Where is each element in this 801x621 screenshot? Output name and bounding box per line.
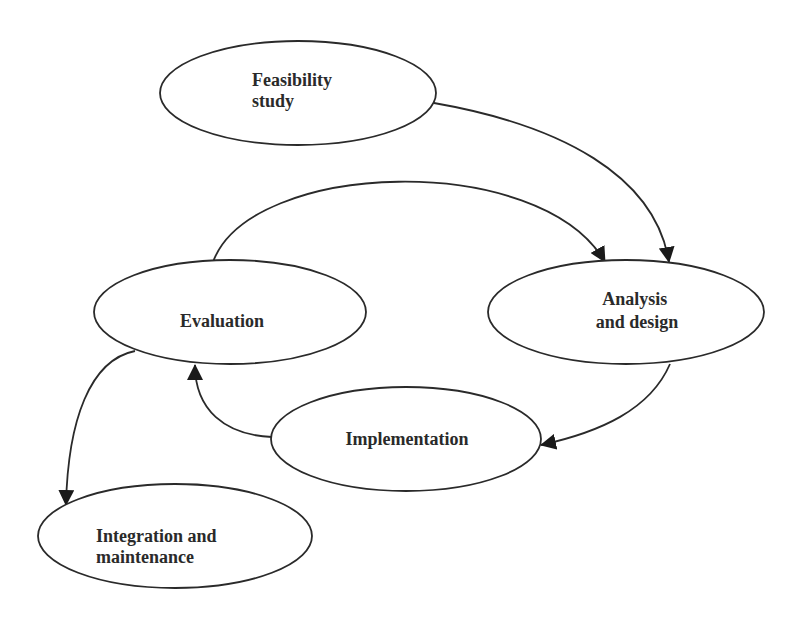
process-cycle-diagram: Feasibility study Analysis and design Ev…: [0, 0, 801, 621]
node-feasibility-study-label-line2: study: [252, 91, 294, 111]
node-feasibility-study-shape: [160, 41, 436, 145]
arrow-implementation-to-evaluation: [195, 365, 272, 437]
arrow-evaluation-to-integration: [66, 351, 135, 505]
arrow-evaluation-to-analysis: [213, 182, 605, 262]
node-feasibility-study-label-line1: Feasibility: [252, 70, 332, 90]
arrow-feasibility-to-analysis: [434, 103, 669, 262]
node-evaluation-label: Evaluation: [180, 311, 264, 331]
arrow-analysis-to-implementation: [541, 364, 670, 445]
node-feasibility-study: Feasibility study: [160, 41, 436, 145]
node-analysis-and-design-label-line2: and design: [596, 312, 679, 332]
node-integration-and-maintenance: Integration and maintenance: [38, 484, 312, 588]
node-evaluation: Evaluation: [94, 260, 366, 364]
node-analysis-and-design-label-line1: Analysis: [602, 289, 667, 309]
node-implementation: Implementation: [271, 387, 541, 491]
node-integration-and-maintenance-label-line1: Integration and: [96, 526, 217, 546]
node-implementation-label: Implementation: [346, 429, 469, 449]
node-integration-and-maintenance-label-line2: maintenance: [96, 547, 194, 567]
node-analysis-and-design: Analysis and design: [488, 260, 764, 364]
